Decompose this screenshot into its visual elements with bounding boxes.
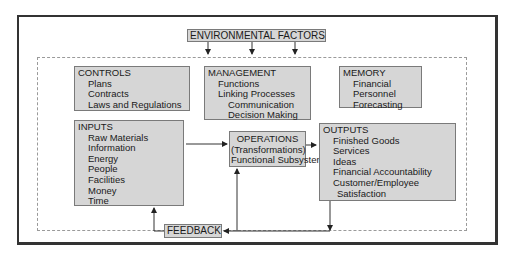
outputs-title: OUTPUTS bbox=[323, 125, 452, 136]
management-title: MANAGEMENT bbox=[208, 68, 307, 79]
inputs-title: INPUTS bbox=[78, 122, 180, 133]
outputs-item: Customer/Employee bbox=[323, 178, 452, 189]
operations-box: OPERATIONS (Transformations) Functional … bbox=[229, 131, 306, 167]
controls-title: CONTROLS bbox=[78, 68, 186, 79]
outputs-box: OUTPUTS Finished Goods Services Ideas Fi… bbox=[319, 123, 456, 201]
memory-title: MEMORY bbox=[343, 68, 418, 79]
memory-box: MEMORY Financial Personnel Forecasting bbox=[339, 66, 422, 108]
management-box: MANAGEMENT Functions Linking Processes C… bbox=[204, 66, 311, 120]
inputs-item: Facilities bbox=[78, 175, 180, 186]
feedback-box: FEEDBACK bbox=[164, 224, 222, 238]
management-subitem: Decision Making bbox=[208, 110, 307, 121]
memory-item: Forecasting bbox=[343, 100, 418, 111]
inputs-box: INPUTS Raw Materials Information Energy … bbox=[74, 120, 184, 206]
environmental-factors-label: ENVIRONMENTAL FACTORS bbox=[190, 30, 325, 41]
controls-item: Laws and Regulations bbox=[78, 100, 186, 111]
operations-line: Functional Subsystems bbox=[231, 155, 304, 166]
feedback-label: FEEDBACK bbox=[167, 225, 221, 236]
controls-box: CONTROLS Plans Contracts Laws and Regula… bbox=[74, 66, 190, 111]
inputs-item: Time bbox=[78, 196, 180, 207]
operations-line: OPERATIONS bbox=[231, 134, 304, 145]
environmental-factors-box: ENVIRONMENTAL FACTORS bbox=[187, 29, 326, 42]
outputs-item-continuation: Satisfaction bbox=[323, 189, 452, 200]
